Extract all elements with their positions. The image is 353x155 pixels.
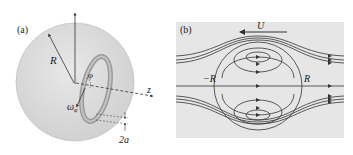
angle-label: φ — [88, 70, 93, 80]
left-radius-label: −R — [203, 73, 216, 84]
figure: (a) R z φ ωφ 2a (b) U — [0, 0, 353, 155]
panel-a: (a) R z φ ωφ 2a — [16, 14, 152, 145]
thickness-label: 2a — [119, 134, 129, 145]
panel-b-background — [176, 22, 344, 138]
panel-b: (b) U — [176, 20, 344, 138]
radius-label: R — [49, 54, 57, 66]
panel-b-label: (b) — [180, 24, 192, 36]
velocity-label: U — [257, 20, 265, 31]
z-axis-label: z — [146, 84, 151, 95]
panel-a-label: (a) — [17, 24, 28, 36]
right-radius-label: R — [303, 73, 310, 84]
